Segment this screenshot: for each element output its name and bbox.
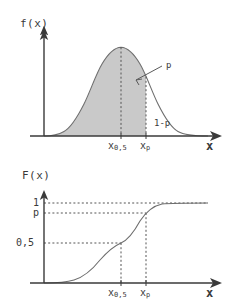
cdf-curve — [44, 203, 208, 283]
top-chart-xlabel: x — [206, 140, 213, 152]
top-xtick-quantile-sub: p — [146, 144, 150, 152]
bottom-chart-ylabel: F(x) — [22, 170, 51, 181]
annotation-p: p — [166, 61, 171, 70]
bottom-xtick-label-median: x0,5 — [108, 288, 127, 299]
bottom-ytick-label-p: p — [33, 208, 39, 218]
bottom-xtick-quantile-sub: p — [146, 291, 150, 299]
shaded-area-p — [44, 47, 146, 136]
bottom-xtick-median-sub: 0,5 — [114, 291, 127, 299]
top-xtick-label-quantile: xp — [140, 141, 150, 152]
top-xtick-median-sub: 0,5 — [114, 144, 127, 152]
bottom-chart-group — [30, 190, 222, 288]
bottom-ytick-label-half: 0,5 — [16, 238, 34, 248]
bottom-chart-xlabel: x — [206, 287, 213, 299]
figure-canvas — [0, 0, 249, 308]
top-chart-group — [30, 30, 222, 141]
annotation-one-minus-p: 1-p — [154, 119, 170, 128]
top-xtick-label-median: x0,5 — [108, 141, 127, 152]
statistics-figure: f(x) x p 1-p x0,5 xp F(x) x 1 p 0,5 x0,5… — [0, 0, 249, 308]
bottom-xtick-label-quantile: xp — [140, 288, 150, 299]
top-chart-ylabel: f(x) — [20, 18, 49, 29]
